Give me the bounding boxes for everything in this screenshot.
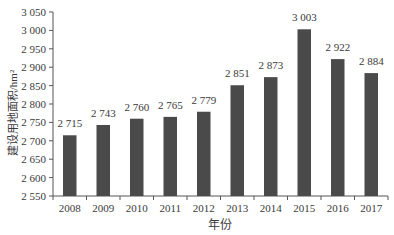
x-tick-label: 2013 bbox=[226, 202, 249, 214]
bar-value-label: 2 922 bbox=[325, 41, 350, 53]
bar-value-label: 2 779 bbox=[191, 94, 216, 106]
y-axis-title-text: 建设用地面积/hm² bbox=[4, 48, 20, 178]
bar-value-label: 2 715 bbox=[57, 117, 82, 129]
x-tick-label: 2010 bbox=[126, 202, 149, 214]
bar-value-label: 2 760 bbox=[124, 101, 149, 113]
bar bbox=[130, 119, 144, 196]
x-tick-label: 2009 bbox=[92, 202, 115, 214]
bar-value-label: 2 873 bbox=[258, 59, 283, 71]
bar-value-label: 3 003 bbox=[292, 11, 317, 23]
bar-value-label: 2 743 bbox=[91, 107, 116, 119]
x-tick-label: 2016 bbox=[327, 202, 350, 214]
x-axis: 2008200920102011201220132014201520162017 bbox=[53, 196, 388, 214]
bar bbox=[331, 59, 345, 196]
bar bbox=[97, 125, 111, 196]
bar bbox=[365, 73, 379, 196]
bar-chart: 2 5502 6002 6502 7002 7502 8002 8502 900… bbox=[0, 0, 394, 235]
x-tick-label: 2008 bbox=[59, 202, 82, 214]
y-tick-label: 2 800 bbox=[21, 98, 46, 110]
bar bbox=[231, 85, 245, 196]
y-tick-label: 2 950 bbox=[21, 43, 46, 55]
y-tick-label: 2 700 bbox=[21, 135, 46, 147]
bar bbox=[298, 29, 312, 196]
bar-value-label: 2 884 bbox=[359, 55, 384, 67]
bar bbox=[264, 77, 278, 196]
y-axis: 2 5502 6002 6502 7002 7502 8002 8502 900… bbox=[21, 6, 53, 202]
y-tick-label: 2 750 bbox=[21, 116, 46, 128]
x-tick-label: 2011 bbox=[159, 202, 181, 214]
bar bbox=[197, 112, 211, 196]
bar-value-label: 2 765 bbox=[158, 99, 183, 111]
x-tick-label: 2014 bbox=[260, 202, 283, 214]
y-tick-label: 3 000 bbox=[21, 24, 46, 36]
x-tick-label: 2012 bbox=[193, 202, 215, 214]
y-tick-label: 2 550 bbox=[21, 190, 46, 202]
y-tick-label: 2 650 bbox=[21, 153, 46, 165]
x-axis-title: 年份 bbox=[195, 215, 245, 233]
y-tick-label: 2 600 bbox=[21, 172, 46, 184]
bar bbox=[164, 117, 178, 196]
y-tick-label: 2 850 bbox=[21, 80, 46, 92]
x-tick-label: 2017 bbox=[360, 202, 383, 214]
bar-value-label: 2 851 bbox=[225, 67, 250, 79]
y-tick-label: 2 900 bbox=[21, 61, 46, 73]
y-tick-label: 3 050 bbox=[21, 6, 46, 18]
x-tick-label: 2015 bbox=[293, 202, 316, 214]
bar bbox=[63, 135, 77, 196]
